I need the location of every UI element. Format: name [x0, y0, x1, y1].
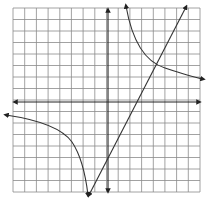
coordinate-graph [0, 0, 208, 201]
grid [13, 8, 200, 192]
axes [15, 10, 199, 191]
straight-line [89, 7, 186, 195]
hyperbola-lower-branch [6, 115, 88, 195]
curves [6, 6, 203, 195]
